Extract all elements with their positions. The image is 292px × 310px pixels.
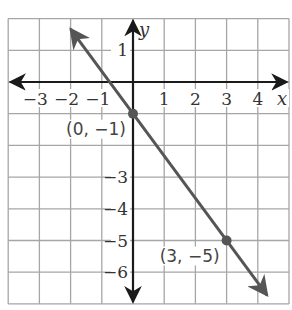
x-tick-label: 4: [252, 89, 263, 109]
point-label: (3, −5): [160, 246, 220, 266]
x-tick-label: 2: [190, 89, 201, 109]
x-tick-label: −3: [23, 89, 48, 109]
x-tick-label: −2: [54, 89, 79, 109]
data-point: [128, 109, 138, 119]
x-tick-label: 1: [159, 89, 170, 109]
data-point: [222, 236, 232, 246]
grid-lines: [8, 19, 289, 304]
y-tick-label: −3: [103, 167, 128, 187]
y-tick-label: −5: [103, 231, 128, 251]
y-axis-label: y: [138, 19, 150, 40]
y-tick-label: −6: [103, 262, 128, 282]
y-tick-label: −4: [103, 199, 128, 219]
x-tick-label: 3: [221, 89, 232, 109]
axes: [10, 21, 287, 302]
point-label: (0, −1): [66, 119, 126, 139]
y-tick-label: 1: [117, 40, 128, 60]
x-tick-label: −1: [85, 89, 110, 109]
tick-labels: −3−2−112341−3−4−5−6xy: [23, 19, 289, 283]
coordinate-plane: −3−2−112341−3−4−5−6xy (0, −1)(3, −5): [0, 0, 292, 310]
x-axis-label: x: [277, 88, 287, 109]
